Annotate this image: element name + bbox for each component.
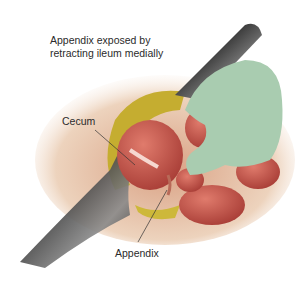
caption-line-1: Appendix exposed by	[50, 34, 163, 47]
appendix-label: Appendix	[115, 247, 159, 260]
cecum-label: Cecum	[62, 115, 95, 128]
surgical-illustration: Appendix exposed by retracting ileum med…	[0, 0, 297, 286]
figure-caption: Appendix exposed by retracting ileum med…	[50, 34, 163, 60]
cecum-organ	[117, 120, 183, 190]
caption-line-2: retracting ileum medially	[50, 47, 163, 60]
